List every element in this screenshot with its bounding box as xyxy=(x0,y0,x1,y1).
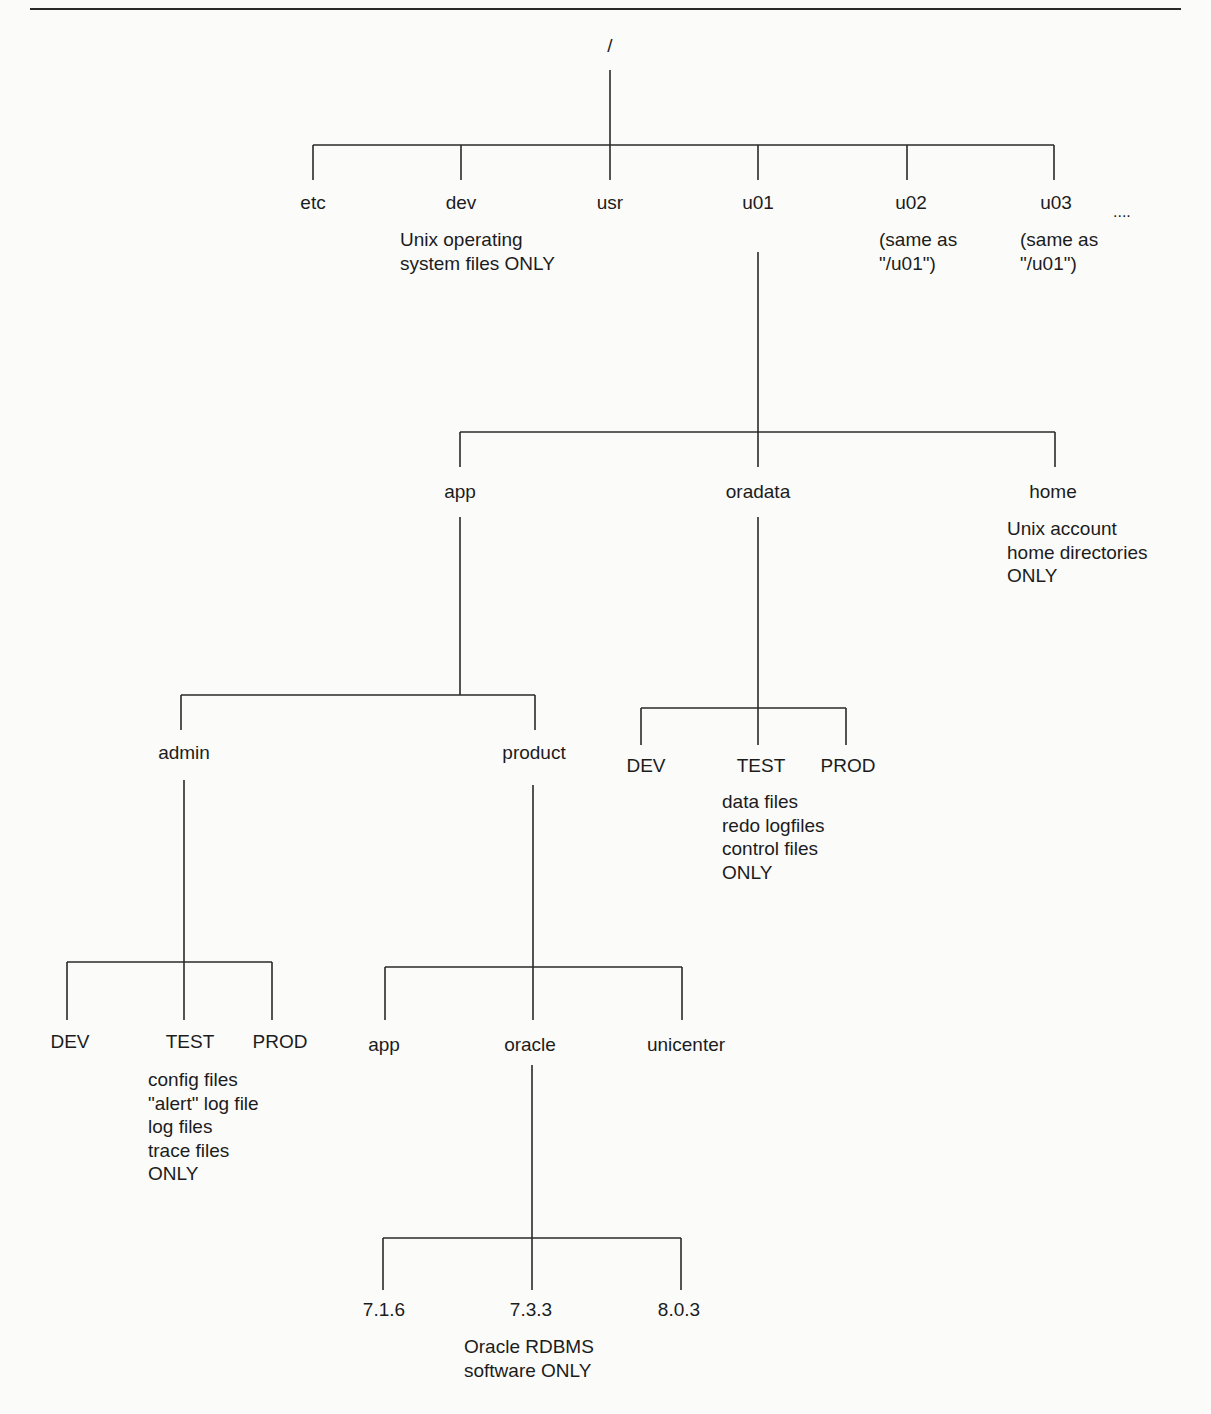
node-unicenter: unicenter xyxy=(647,1033,725,1056)
node-u02: u02 xyxy=(895,191,927,214)
note-oradata-test: data files redo logfiles control files O… xyxy=(722,790,824,884)
node-home: home xyxy=(1029,480,1077,503)
node-admin-dev: DEV xyxy=(50,1030,89,1053)
note-u03: (same as "/u01") xyxy=(1020,228,1098,275)
node-root: / xyxy=(607,34,612,57)
note-dev: Unix operating system files ONLY xyxy=(400,228,555,275)
node-oradata: oradata xyxy=(726,480,790,503)
node-oradata-prod: PROD xyxy=(821,754,876,777)
node-version-803: 8.0.3 xyxy=(658,1298,700,1321)
node-dev: dev xyxy=(446,191,477,214)
node-admin: admin xyxy=(158,741,210,764)
node-version-733: 7.3.3 xyxy=(510,1298,552,1321)
node-admin-prod: PROD xyxy=(253,1030,308,1053)
node-version-716: 7.1.6 xyxy=(363,1298,405,1321)
note-oracle-733: Oracle RDBMS software ONLY xyxy=(464,1335,594,1382)
node-oradata-test: TEST xyxy=(737,754,786,777)
note-home: Unix account home directories ONLY xyxy=(1007,517,1147,588)
node-oradata-dev: DEV xyxy=(626,754,665,777)
node-oracle: oracle xyxy=(504,1033,556,1056)
note-admin-test: config files "alert" log file log files … xyxy=(148,1068,259,1186)
node-product-app: app xyxy=(368,1033,400,1056)
more-ellipsis: .... xyxy=(1113,200,1131,223)
node-etc: etc xyxy=(300,191,325,214)
node-product: product xyxy=(502,741,565,764)
node-u01: u01 xyxy=(742,191,774,214)
node-u03: u03 xyxy=(1040,191,1072,214)
node-app: app xyxy=(444,480,476,503)
note-u02: (same as "/u01") xyxy=(879,228,957,275)
node-admin-test: TEST xyxy=(166,1030,215,1053)
node-usr: usr xyxy=(597,191,623,214)
